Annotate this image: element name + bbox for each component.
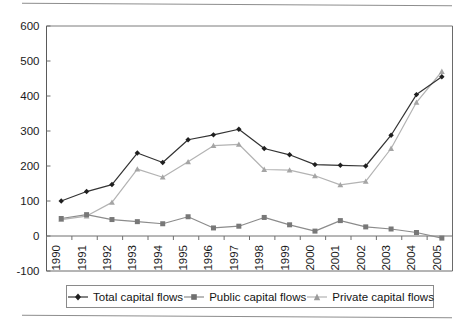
figure-container: -1000100200300400500600 1990199119921993… <box>0 0 474 324</box>
legend-item-public[interactable]: Public capital flows <box>183 291 306 303</box>
data-point-marker <box>59 198 64 203</box>
data-point-marker <box>59 216 64 221</box>
x-axis-tick-label: 1994 <box>152 244 164 270</box>
x-axis-tick-label: 1997 <box>228 245 240 271</box>
data-point-marker <box>84 212 89 217</box>
data-point-marker <box>338 218 343 223</box>
data-point-marker <box>135 219 140 224</box>
line-triangle-marker-icon <box>306 291 328 303</box>
x-axis-ticks <box>47 236 453 240</box>
data-point-marker <box>287 222 292 227</box>
data-point-marker <box>84 189 89 194</box>
data-point-marker <box>287 152 292 157</box>
data-point-marker <box>414 230 419 235</box>
legend-item-private[interactable]: Private capital flows <box>306 291 434 303</box>
x-axis-tick-labels: 1990199119921993199419951996199719981999… <box>50 244 443 270</box>
x-axis-tick-label: 2001 <box>329 245 341 271</box>
data-point-marker <box>338 163 343 168</box>
line-chart: -1000100200300400500600 1990199119921993… <box>0 0 474 324</box>
x-axis-tick-label: 1995 <box>177 245 189 271</box>
x-axis-tick-label: 1999 <box>279 245 291 271</box>
data-point-marker <box>262 215 267 220</box>
line-diamond-marker-icon <box>67 291 89 303</box>
x-axis-tick-label: 1993 <box>126 245 138 271</box>
series-total-capital-flows <box>59 74 445 204</box>
y-axis-ticks <box>47 26 51 271</box>
y-axis-tick-label: 200 <box>20 160 39 172</box>
data-point-marker <box>389 227 394 232</box>
series-private-capital-flows <box>58 69 444 222</box>
x-axis-tick-label: 1992 <box>101 245 113 271</box>
data-point-marker <box>160 221 165 226</box>
chart-legend: Total capital flows Public capital flows… <box>66 285 434 308</box>
y-axis-tick-label: 600 <box>20 20 39 32</box>
x-axis-tick-label: 2003 <box>380 245 392 271</box>
y-axis-tick-label: 0 <box>33 230 39 242</box>
data-point-marker <box>186 214 191 219</box>
legend-label-private: Private capital flows <box>332 291 434 303</box>
data-point-marker <box>388 146 394 151</box>
legend-label-total: Total capital flows <box>93 291 183 303</box>
y-axis-tick-label: 400 <box>20 90 39 102</box>
y-axis-tick-label: 100 <box>20 195 39 207</box>
x-axis-tick-label: 1990 <box>50 245 62 271</box>
x-axis-tick-label: 1996 <box>202 245 214 271</box>
y-axis-tick-label: -100 <box>16 265 39 277</box>
data-series-layer <box>58 69 444 241</box>
data-point-marker <box>236 224 241 229</box>
x-axis-tick-label: 2000 <box>304 245 316 271</box>
x-axis-tick-label: 2004 <box>405 244 417 270</box>
data-point-marker <box>109 217 114 222</box>
y-axis-tick-labels: -1000100200300400500600 <box>16 20 39 277</box>
data-point-marker <box>439 236 444 241</box>
data-point-marker <box>439 69 445 74</box>
x-axis-tick-label: 1991 <box>76 245 88 271</box>
x-axis-tick-label: 2002 <box>355 245 367 271</box>
data-point-marker <box>134 166 140 171</box>
x-axis-tick-label: 2005 <box>431 245 443 271</box>
line-square-marker-icon <box>183 291 205 303</box>
data-point-marker <box>211 225 216 230</box>
data-point-marker <box>312 162 317 167</box>
data-point-marker <box>185 159 191 164</box>
legend-label-public: Public capital flows <box>209 291 306 303</box>
legend-item-total[interactable]: Total capital flows <box>67 291 183 303</box>
y-axis-tick-label: 300 <box>20 125 39 137</box>
data-point-marker <box>363 224 368 229</box>
data-point-marker <box>211 132 216 137</box>
data-point-marker <box>312 229 317 234</box>
y-axis-tick-label: 500 <box>20 55 39 67</box>
x-axis-tick-label: 1998 <box>253 245 265 271</box>
